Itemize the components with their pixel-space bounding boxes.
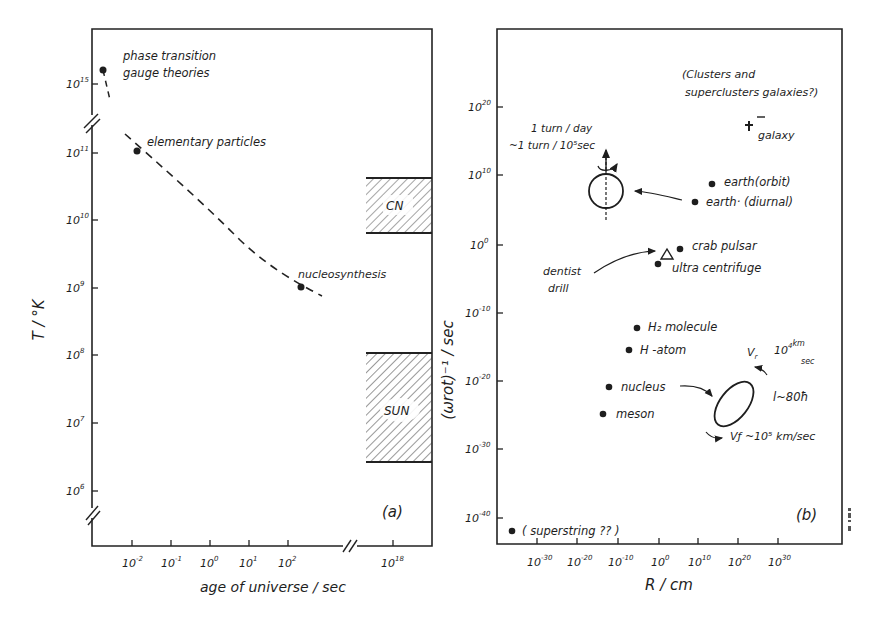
label-clusters-line2: superclusters galaxies?): [685, 86, 818, 99]
point-dentist-drill: [661, 249, 673, 259]
nucleus-deformation-ellipse: [707, 375, 761, 433]
point-meson: [600, 411, 607, 418]
svg-text:1018: 1018: [381, 555, 404, 570]
label-cn: CN: [386, 199, 403, 213]
svg-text:1011: 1011: [66, 145, 89, 160]
svg-text:100: 100: [651, 554, 670, 569]
point-earth-orbit: [709, 181, 716, 188]
arrow-earth-to-sphere: [635, 191, 682, 200]
point-superstring: [509, 528, 516, 535]
svg-text:109: 109: [66, 280, 85, 295]
x-tick-labels-b: 10-30 10-20 10-10 100 1010 1020 1030: [527, 554, 791, 569]
region-cn: CN: [366, 178, 432, 233]
panel-label-a: (a): [382, 503, 403, 521]
y-tick-labels-b: 1020 1010 100 10-10 10-20 10-30 10-40: [465, 99, 491, 525]
y-ticks-b: [497, 107, 503, 518]
point-phase-transition: [100, 67, 107, 74]
svg-text:10-30: 10-30: [465, 441, 491, 456]
point-elementary-particles: [134, 148, 141, 155]
label-earth-diurnal: earth· (diurnal): [706, 195, 793, 209]
label-nucleus: nucleus: [621, 380, 665, 394]
svg-text:1015: 1015: [66, 76, 89, 91]
x-tick-labels-a: 10-2 10-1 100 101 102 1018: [122, 555, 404, 570]
svg-text:10-30: 10-30: [527, 554, 553, 569]
label-sun: SUN: [384, 404, 409, 418]
y-tick-labels-a: 1015 1011 1010 109 108 107 106: [66, 76, 89, 498]
label-turn-per-1e5-sec: ~1 turn / 10⁵sec: [509, 139, 595, 151]
temperature-curve-upper: [103, 70, 110, 100]
panel-label-b: (b): [796, 506, 817, 524]
x-axis-break: [343, 540, 357, 552]
arrow-nucleus: [680, 386, 712, 396]
label-clusters-line1: (Clusters and: [682, 68, 756, 81]
label-l-80hbar: l~80ħ: [773, 390, 808, 404]
label-meson: meson: [616, 407, 655, 421]
point-nucleosynthesis: [298, 284, 305, 291]
svg-text:100: 100: [200, 555, 219, 570]
panel-b: 1020 1010 100 10-10 10-20 10-30 10-40 10…: [439, 29, 851, 594]
label-vr: Vr: [747, 346, 759, 361]
svg-text:1010: 1010: [688, 554, 711, 569]
svg-text:10-10: 10-10: [608, 554, 634, 569]
point-ultra-centrifuge: [655, 261, 662, 268]
y-ticks-a: [92, 84, 98, 491]
svg-text:1010: 1010: [66, 212, 89, 227]
svg-text:1030: 1030: [768, 554, 791, 569]
label-galaxy: galaxy: [758, 129, 795, 142]
label-earth-orbit: earth(orbit): [724, 175, 790, 189]
svg-text:102: 102: [278, 555, 297, 570]
x-axis-label-a: age of universe / sec: [200, 579, 346, 595]
svg-text:10-10: 10-10: [465, 305, 491, 320]
label-turn-per-day: 1 turn / day: [531, 122, 593, 134]
label-vr-value: 104km: [774, 339, 805, 357]
x-ticks-b: [537, 538, 778, 544]
label-nucleosynthesis: nucleosynthesis: [298, 268, 387, 281]
point-h2-molecule: [634, 325, 641, 332]
svg-text:1020: 1020: [468, 99, 491, 114]
y-axis-label-b: (ωrot)⁻¹ / sec: [439, 320, 457, 420]
point-h-atom: [626, 347, 633, 354]
svg-text:10-2: 10-2: [122, 555, 144, 570]
region-sun: SUN: [366, 353, 432, 462]
arrow-dentist-drill: [594, 251, 655, 273]
svg-text:10-20: 10-20: [465, 373, 491, 388]
svg-text:100: 100: [470, 237, 489, 252]
svg-text:1010: 1010: [468, 167, 491, 182]
svg-text:10-1: 10-1: [161, 555, 182, 570]
y-axis-label-a: T / °K: [30, 298, 48, 340]
earth-rotation-illustration: [589, 150, 623, 222]
svg-text:101: 101: [239, 555, 257, 570]
label-vf: Vƒ ~10⁵ km/sec: [730, 430, 815, 443]
label-h2-molecule: H₂ molecule: [648, 320, 717, 334]
point-crab-pulsar: [677, 246, 684, 253]
figure-canvas: 1015 1011 1010 109 108 107 106 10-2 10-1…: [0, 0, 873, 619]
arrow-vr: [755, 367, 767, 375]
svg-text:1020: 1020: [728, 554, 751, 569]
panel-a: 1015 1011 1010 109 108 107 106 10-2 10-1…: [30, 29, 432, 595]
margin-code-mark: [848, 508, 851, 531]
label-drill: drill: [548, 282, 569, 295]
svg-text:10-40: 10-40: [465, 510, 491, 525]
label-ultra-centrifuge: ultra centrifuge: [672, 261, 761, 275]
svg-text:107: 107: [66, 415, 85, 430]
label-h-atom: H -atom: [640, 343, 686, 357]
arrow-vf: [706, 432, 722, 438]
label-superstring: ( superstring ?? ): [522, 524, 620, 538]
label-phase-transition: phase transition: [122, 49, 216, 63]
label-gauge-theories: gauge theories: [123, 66, 210, 80]
label-elementary-particles: elementary particles: [147, 135, 266, 149]
svg-text:106: 106: [66, 483, 85, 498]
temperature-curve: [125, 134, 322, 296]
point-earth-diurnal: [692, 199, 699, 206]
label-dentist: dentist: [543, 265, 582, 278]
svg-text:10-20: 10-20: [567, 554, 593, 569]
x-axis-label-b: R / cm: [645, 576, 693, 594]
label-crab-pulsar: crab pulsar: [692, 239, 758, 253]
point-nucleus: [606, 384, 613, 391]
svg-text:108: 108: [66, 347, 85, 362]
label-vr-unit: sec: [801, 357, 815, 366]
panel-a-frame: [92, 29, 432, 546]
